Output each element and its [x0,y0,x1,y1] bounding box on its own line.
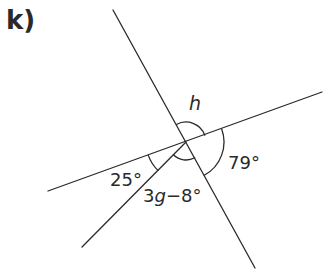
angle-diagram [0,0,323,269]
angle-79-label: 79° [228,154,260,172]
angle-3g-8-label: 3g−8° [143,187,201,205]
arc-3g-8 [173,155,194,160]
shallow-line [48,92,322,191]
expr-constant: −8° [166,185,202,206]
angle-25-label: 25° [110,171,142,189]
steep-line [113,10,255,268]
arc-25 [148,155,158,170]
angle-h-label: h [189,94,201,113]
expr-variable: g [154,185,165,206]
expr-coefficient: 3 [143,185,154,206]
question-label: k) [6,7,35,33]
arc-79 [204,129,224,175]
